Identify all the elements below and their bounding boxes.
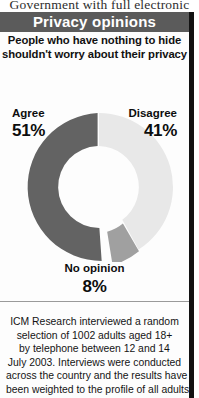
chart-subtitle-line-2: shouldn't worry about their privacy <box>0 48 189 62</box>
panel-inner: Privacy opinions People who have nothing… <box>0 12 189 398</box>
methodology-note-line-3: by telephone between 12 and 14 <box>6 342 183 356</box>
panel-header-bar: Privacy opinions <box>0 12 189 32</box>
label-disagree-value: 41% <box>128 122 177 139</box>
methodology-note-line-1: ICM Research interviewed a random <box>6 315 183 329</box>
methodology-note: ICM Research interviewed a random select… <box>0 301 189 398</box>
methodology-note-line-5: across the country and the results have <box>6 369 183 383</box>
label-disagree-name: Disagree <box>128 108 177 120</box>
label-agree: Agree 51% <box>12 108 45 139</box>
chart-area: Agree 51% Disagree 41% No opinion 8% <box>0 64 189 294</box>
label-no-opinion-name: No opinion <box>0 263 189 275</box>
chart-subtitle: People who have nothing to hide shouldn'… <box>0 34 189 61</box>
methodology-note-line-6: been weighted to the profile of all adul… <box>6 383 183 397</box>
label-agree-value: 51% <box>12 122 45 139</box>
chart-subtitle-line-1: People who have nothing to hide <box>0 34 189 48</box>
label-disagree: Disagree 41% <box>128 108 177 139</box>
label-agree-name: Agree <box>12 108 45 120</box>
infographic-panel: Privacy opinions People who have nothing… <box>0 12 194 398</box>
methodology-note-line-2: selection of 1002 adults aged 18+ <box>6 329 183 343</box>
methodology-note-line-4: July 2003. Interviews were conducted <box>6 356 183 370</box>
page-title: Privacy opinions <box>33 14 156 29</box>
label-no-opinion: No opinion 8% <box>0 263 189 295</box>
label-no-opinion-value: 8% <box>0 278 189 295</box>
